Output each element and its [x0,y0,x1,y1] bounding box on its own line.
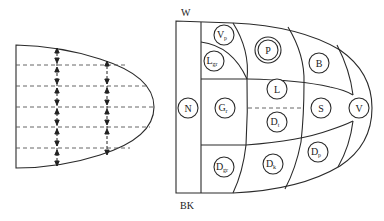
region-vp: Vp [214,25,234,45]
region-lgr: Lgr [204,51,224,71]
arrow-column-right [105,61,109,155]
svg-text:P: P [265,45,271,56]
svg-text:L: L [274,84,280,95]
svg-text:S: S [318,103,324,114]
svg-text:B: B [316,58,323,69]
region-dp: Dp [308,142,328,162]
label-bk: BK [180,200,195,211]
region-dt: Dt [267,112,287,132]
left-outline [16,45,154,168]
svg-text:N: N [184,103,191,114]
region-p: P [255,37,281,63]
region-dgr: Dgr [214,157,234,177]
region-gr: Gr [215,98,235,118]
region-l: L [267,79,287,99]
region-v: V [349,98,369,118]
dashed-lines [16,65,154,148]
left-diagram [16,45,154,168]
label-w: W [181,7,191,18]
region-dk: Dk [263,154,283,174]
svg-text:V: V [355,103,363,114]
region-n: N [178,98,198,118]
divider-col2 [285,27,304,189]
right-diagram: W BK N Vp Lgr P [176,7,372,211]
diagram-canvas: W BK N Vp Lgr P [0,0,384,221]
region-b: B [309,53,329,73]
region-s: S [311,98,331,118]
